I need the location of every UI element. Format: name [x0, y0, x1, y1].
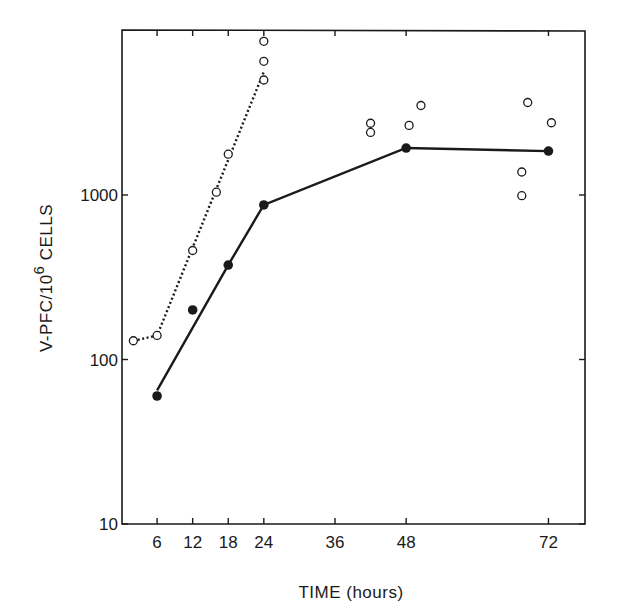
open-circle-marker	[518, 192, 526, 200]
open-circle-marker	[417, 102, 425, 110]
plot-border	[122, 30, 585, 524]
open-circle-marker	[524, 99, 532, 107]
axis-ticks	[122, 30, 585, 524]
y-tick-label: 10	[99, 515, 118, 534]
open-circle-marker	[189, 246, 197, 254]
open-circle-marker	[153, 331, 161, 339]
open-circle-marker	[547, 119, 555, 127]
x-tick-label: 18	[219, 533, 238, 552]
y-tick-label: 1000	[80, 186, 118, 205]
tick-labels: 6121824364872101001000	[80, 186, 558, 552]
filled-circle-marker	[188, 305, 198, 315]
y-axis-title: V-PFC/106 CELLS	[30, 204, 56, 352]
x-tick-label: 48	[397, 533, 416, 552]
x-tick-label: 36	[326, 533, 345, 552]
y-axis-title-main: V-PFC/10	[37, 274, 56, 352]
open-circle-marker	[260, 76, 268, 84]
y-axis-title-tail: CELLS	[37, 204, 56, 266]
open-circle-marker	[367, 128, 375, 136]
filled-circle-marker	[401, 143, 411, 153]
x-tick-label: 6	[152, 533, 161, 552]
open-circle-marker	[212, 188, 220, 196]
series-line-1	[133, 72, 263, 341]
open-circle-marker	[224, 150, 232, 158]
x-tick-label: 12	[183, 533, 202, 552]
open-circle-marker	[260, 37, 268, 45]
open-circle-marker	[260, 57, 268, 65]
series-line-0	[157, 148, 548, 390]
open-circle-marker	[518, 168, 526, 176]
series-markers	[129, 37, 555, 401]
filled-circle-marker	[152, 391, 162, 401]
plot-frame	[122, 30, 585, 524]
y-axis-title-superscript: 6	[30, 266, 47, 275]
y-tick-label: 100	[90, 351, 118, 370]
x-tick-label: 24	[254, 533, 273, 552]
chart: 6121824364872101001000 TIME (hours) V-PF…	[0, 0, 618, 611]
x-axis-title: TIME (hours)	[298, 583, 403, 602]
open-circle-marker	[129, 337, 137, 345]
series-lines	[133, 72, 548, 390]
open-circle-marker	[367, 119, 375, 127]
x-tick-label: 72	[539, 533, 558, 552]
filled-circle-marker	[259, 200, 269, 210]
filled-circle-marker	[223, 260, 233, 270]
open-circle-marker	[405, 121, 413, 129]
filled-circle-marker	[544, 146, 554, 156]
